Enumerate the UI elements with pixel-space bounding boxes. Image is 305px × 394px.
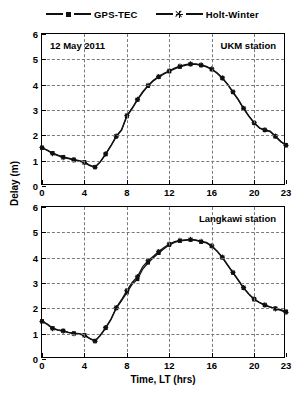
x-tick-mark <box>169 180 170 184</box>
x-tick-label: 4 <box>82 360 87 371</box>
series-line <box>42 240 286 341</box>
data-point-star <box>188 237 193 242</box>
legend-line <box>74 13 91 15</box>
data-point-star <box>262 302 267 307</box>
data-point-star <box>220 75 225 80</box>
y-tick-mark <box>42 334 46 335</box>
x-tick-mark <box>212 353 213 357</box>
x-tick-label: 4 <box>82 187 87 198</box>
gridline-vertical <box>84 34 85 184</box>
x-tick-label: 8 <box>124 360 129 371</box>
x-tick-label: 23 <box>281 360 292 371</box>
gridline-horizontal <box>42 258 284 259</box>
gridline-horizontal <box>42 283 284 284</box>
x-tick-mark <box>84 353 85 357</box>
gridline-horizontal <box>42 59 284 60</box>
y-tick-label: 4 <box>33 252 38 263</box>
y-tick-mark <box>42 308 46 309</box>
data-point-star <box>39 145 44 150</box>
legend-item-holt-winter: Holt-Winter <box>156 9 259 20</box>
data-point-star <box>283 143 288 148</box>
star-marker-icon <box>176 11 183 18</box>
y-axis-label: Delay (m) <box>9 144 20 224</box>
square-marker-icon <box>66 12 71 17</box>
y-tick-mark <box>42 283 46 284</box>
x-axis-label: Time, LT (hrs) <box>41 374 285 385</box>
gridline-horizontal <box>42 161 284 162</box>
y-tick-mark <box>42 232 46 233</box>
y-tick-label: 2 <box>33 303 38 314</box>
data-point-star <box>241 285 246 290</box>
gridline-vertical <box>254 34 255 184</box>
data-point-star <box>230 270 235 275</box>
x-tick-mark <box>127 353 128 357</box>
series-line <box>42 239 286 341</box>
data-point-star <box>177 64 182 69</box>
legend-line <box>156 13 173 15</box>
y-tick-mark <box>42 135 46 136</box>
x-tick-label: 0 <box>39 187 44 198</box>
data-point-star <box>135 97 140 102</box>
data-point-star <box>262 127 267 132</box>
gridline-vertical <box>212 34 213 184</box>
x-tick-label: 16 <box>206 187 217 198</box>
y-tick-label: 5 <box>33 54 38 65</box>
gridline-vertical <box>127 34 128 184</box>
x-tick-mark <box>84 180 85 184</box>
gridline-horizontal <box>42 232 284 233</box>
data-point-star <box>50 151 55 156</box>
gridline-vertical <box>169 207 170 357</box>
y-tick-mark <box>42 161 46 162</box>
data-point-star <box>61 155 66 160</box>
y-tick-label: 1 <box>33 328 38 339</box>
data-point-star <box>230 89 235 94</box>
x-tick-mark <box>212 180 213 184</box>
x-tick-mark <box>254 180 255 184</box>
y-tick-mark <box>42 110 46 111</box>
y-tick-label: 2 <box>33 130 38 141</box>
gridline-horizontal <box>42 308 284 309</box>
data-point-star <box>177 238 182 243</box>
x-tick-label: 20 <box>249 360 260 371</box>
data-point-star <box>103 151 108 156</box>
data-point-star <box>188 61 193 66</box>
y-tick-label: 3 <box>33 105 38 116</box>
y-tick-label: 6 <box>33 202 38 213</box>
x-tick-mark <box>42 353 43 357</box>
data-point-star <box>39 319 44 324</box>
gridline-horizontal <box>42 135 284 136</box>
gridline-horizontal <box>42 334 284 335</box>
y-tick-mark <box>42 85 46 86</box>
x-tick-mark <box>286 353 287 357</box>
x-tick-mark <box>127 180 128 184</box>
y-tick-label: 0 <box>33 354 38 365</box>
data-point-star <box>283 310 288 315</box>
data-point-star <box>199 239 204 244</box>
x-tick-label: 20 <box>249 187 260 198</box>
x-tick-label: 12 <box>164 187 175 198</box>
gridline-vertical <box>84 207 85 357</box>
data-point-star <box>156 249 161 254</box>
data-point-star <box>135 274 140 279</box>
y-tick-mark <box>42 59 46 60</box>
y-tick-mark <box>42 207 46 208</box>
legend-label: Holt-Winter <box>206 9 259 20</box>
data-point-star <box>103 325 108 330</box>
y-tick-label: 5 <box>33 227 38 238</box>
gridline-vertical <box>212 207 213 357</box>
data-point-star <box>199 62 204 67</box>
legend-line <box>186 13 203 15</box>
chart-legend: GPS-TEC Holt-Winter <box>0 4 305 24</box>
x-tick-mark <box>286 180 287 184</box>
legend-line <box>46 13 63 15</box>
y-tick-label: 0 <box>33 181 38 192</box>
gridline-horizontal <box>42 110 284 111</box>
gridline-vertical <box>254 207 255 357</box>
data-point-star <box>145 258 150 263</box>
x-tick-label: 8 <box>124 187 129 198</box>
data-point-star <box>92 339 97 344</box>
y-tick-mark <box>42 34 46 35</box>
gridline-horizontal <box>42 85 284 86</box>
legend-item-gps-tec: GPS-TEC <box>46 9 138 20</box>
legend-label: GPS-TEC <box>94 9 138 20</box>
